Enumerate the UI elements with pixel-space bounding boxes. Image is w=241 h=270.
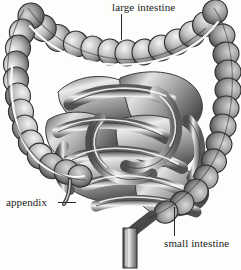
leader-line-appendix [58,202,76,203]
leader-line-large-intestine [121,14,122,40]
rectum [123,228,137,268]
leader-line-small-intestine [174,207,175,236]
intestines-figure: large intestine appendix small intestine [0,0,241,270]
label-appendix: appendix [6,196,47,208]
intestines-illustration [0,0,241,270]
label-small-intestine: small intestine [164,237,229,249]
label-large-intestine: large intestine [112,1,175,13]
